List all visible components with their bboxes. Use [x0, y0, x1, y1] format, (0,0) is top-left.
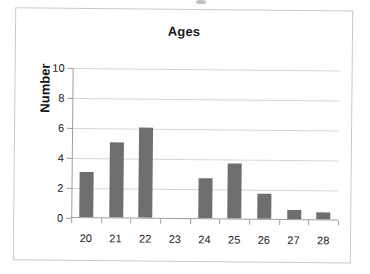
- bar: [287, 210, 301, 219]
- chart-skew-wrapper: Ages Number 0246810 202122232425262728: [0, 0, 370, 274]
- x-axis-tick-label: 20: [80, 232, 92, 244]
- y-axis-title: Number: [37, 63, 52, 112]
- y-axis-tick-label: 0: [57, 212, 63, 224]
- bar: [79, 172, 93, 217]
- chart-title: Ages: [16, 22, 352, 40]
- x-axis-tick: [130, 218, 131, 223]
- x-axis-tick: [249, 220, 250, 225]
- y-axis-tick-label: 2: [57, 182, 63, 194]
- chart-frame: Ages Number 0246810 202122232425262728: [13, 7, 353, 263]
- gridline: [72, 98, 339, 102]
- x-axis-tick-label: 24: [198, 233, 210, 245]
- x-axis-tick: [219, 219, 220, 224]
- y-axis-line: [71, 68, 73, 218]
- x-axis-tick-label: 26: [258, 234, 270, 246]
- x-axis-tick: [71, 218, 72, 223]
- x-axis-tick-label: 25: [228, 233, 240, 245]
- bar: [138, 128, 153, 218]
- plot-area: 0246810 202122232425262728: [71, 68, 339, 221]
- x-axis-tick-label: 28: [317, 234, 329, 246]
- x-axis-tick-label: 23: [169, 233, 181, 245]
- x-axis-tick-label: 22: [139, 233, 151, 245]
- y-axis-tick-label: 6: [58, 122, 64, 134]
- gridline: [73, 68, 340, 72]
- y-axis-tick-label: 8: [58, 92, 64, 104]
- bar: [109, 142, 124, 217]
- x-axis-tick-label: 27: [287, 234, 299, 246]
- bar: [227, 163, 242, 219]
- gridline: [72, 128, 339, 132]
- bar: [316, 212, 330, 220]
- x-axis-tick: [101, 218, 102, 223]
- x-axis-tick: [160, 219, 161, 224]
- x-axis-tick: [308, 220, 309, 225]
- gridlines: [73, 68, 340, 71]
- bar: [257, 193, 271, 219]
- y-axis-tick-label: 10: [52, 62, 64, 74]
- x-axis-tick: [279, 220, 280, 225]
- y-axis-tick-label: 4: [58, 152, 64, 164]
- x-axis-tick-label: 21: [109, 232, 121, 244]
- bar: [198, 178, 212, 219]
- x-axis-tick: [190, 219, 191, 224]
- x-axis-tick: [338, 220, 339, 225]
